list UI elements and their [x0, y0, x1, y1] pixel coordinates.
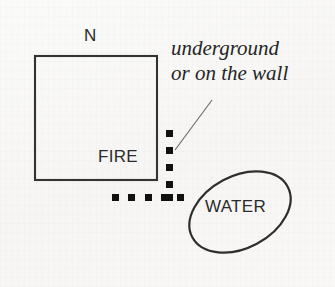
- fire-label: FIRE: [98, 147, 138, 167]
- building-outline: [35, 56, 157, 180]
- annotation-line-1: underground: [171, 36, 288, 61]
- annotation-leader-line: [175, 100, 212, 150]
- north-label: N: [84, 26, 97, 46]
- pipe-vertical-run: [166, 130, 173, 201]
- diagram-canvas: N FIRE WATER underground or on the wall: [0, 0, 335, 287]
- pipe-horizontal-run: [112, 194, 184, 201]
- annotation-line-2: or on the wall: [171, 61, 288, 86]
- water-label: WATER: [205, 197, 266, 217]
- annotation-text: underground or on the wall: [171, 36, 288, 86]
